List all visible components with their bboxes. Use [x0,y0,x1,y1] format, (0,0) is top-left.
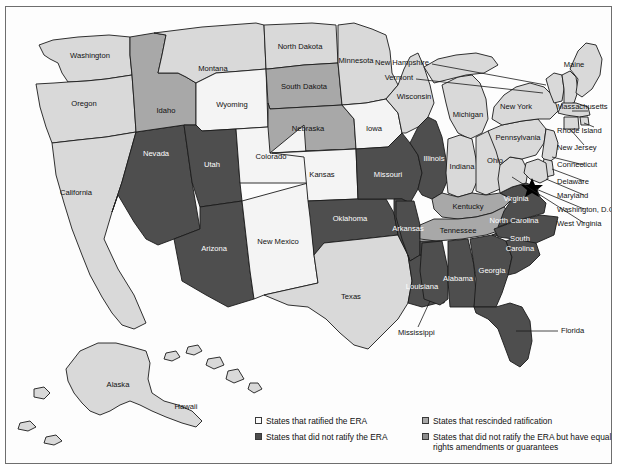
label-maryland: Maryland [557,191,588,200]
us-map-container: Washington Oregon California Nevada Idah… [6,7,611,463]
legend-swatch-equal-rights-icon [422,433,429,440]
label-connecticut: New Jersey [557,143,597,152]
label-south-dakota: South Dakota [281,82,328,91]
era-map-page: Washington Oregon California Nevada Idah… [0,0,618,471]
legend-swatch-ratified-icon [255,417,262,424]
legend-item-equal-rights[interactable]: States that did not ratify the ERA but h… [422,432,612,453]
label-idaho: Idaho [156,106,175,115]
label-missouri: Missouri [374,170,403,179]
label-louisiana: Louisiana [406,282,439,291]
label-north-dakota: North Dakota [278,42,324,51]
label-hawaii: Hawaii [175,402,198,411]
label-delaware: Delaware [557,177,589,186]
label-washington: Washington [70,51,110,60]
label-alaska: Alaska [107,380,131,389]
label-washington-dc: Washington, D.C. [557,205,611,214]
label-nevada: Nevada [143,149,170,158]
label-texas: Texas [341,292,361,301]
label-oklahoma: Oklahoma [333,214,368,223]
legend-item-ratified[interactable]: States that ratified the ERA [255,416,420,427]
legend-label-rescinded: States that rescinded ratification [433,416,552,427]
us-map-svg: Washington Oregon California Nevada Idah… [6,7,611,463]
legend-label-ratified: States that ratified the ERA [266,416,367,427]
alaska-islands[interactable] [18,387,62,445]
label-new-hampshire: New Hampshire [375,58,429,67]
state-hawaii[interactable] [164,345,262,393]
label-north-carolina: North Carolina [490,216,540,225]
state-alaska[interactable] [66,343,202,427]
label-montana: Montana [198,64,228,73]
label-wisconsin: Wisconsin [397,92,432,101]
label-michigan: Michigan [453,110,483,119]
label-virginia: Virginia [503,194,529,203]
legend-column-left: States that ratified the ERA States that… [255,416,420,447]
label-kansas: Kansas [309,170,335,179]
legend-item-not-ratified[interactable]: States that did not ratify the ERA [255,432,420,443]
map-legend: States that ratified the ERA States that… [255,416,605,460]
label-pennsylvania: Pennsylvania [495,133,541,142]
label-south-carolina-1: South [510,234,530,243]
label-minnesota: Minnesota [338,56,374,65]
label-utah: Utah [204,160,220,169]
state-oregon[interactable] [36,75,136,143]
state-mississippi-body[interactable] [420,241,448,305]
legend-label-not-ratified: States that did not ratify the ERA [266,432,388,443]
label-new-york: New York [500,102,532,111]
label-new-mexico: New Mexico [257,237,298,246]
label-arizona: Arizona [201,244,228,253]
legend-item-rescinded[interactable]: States that rescinded ratification [422,416,612,427]
label-kentucky: Kentucky [452,202,483,211]
legend-label-equal-rights: States that did not ratify the ERA but h… [433,432,612,453]
legend-swatch-rescinded-icon [422,417,429,424]
label-oregon: Oregon [71,99,96,108]
label-wyoming: Wyoming [216,100,248,109]
label-iowa: Iowa [366,124,383,133]
label-south-carolina-2: Carolina [506,244,535,253]
label-west-virginia: West Virginia [557,219,602,228]
label-rhode-island: Rhode Island [557,126,602,135]
label-ohio: Ohio [487,156,503,165]
legend-column-right: States that rescinded ratification State… [422,416,612,458]
label-maine: Maine [564,60,585,69]
state-maryland[interactable] [524,159,548,183]
label-arkansas: Arkansas [392,224,424,233]
label-florida: Florida [561,326,585,335]
label-colorado: Colorado [256,152,287,161]
label-vermont: Vermont [385,73,414,82]
state-florida[interactable] [474,303,532,367]
label-illinois: Illinois [423,154,444,163]
label-alabama: Alabama [443,274,474,283]
label-tennessee: Tennessee [440,226,477,235]
label-mississippi: Mississippi [398,328,435,337]
label-georgia: Georgia [478,266,506,275]
label-nebraska: Nebraska [292,124,325,133]
label-new-jersey: Connecticut [557,160,598,169]
label-massachusetts: Massachusetts [557,102,608,111]
state-rhode-island[interactable] [580,117,589,125]
legend-swatch-not-ratified-icon [255,433,262,440]
label-california: California [60,188,93,197]
label-indiana: Indiana [450,162,476,171]
